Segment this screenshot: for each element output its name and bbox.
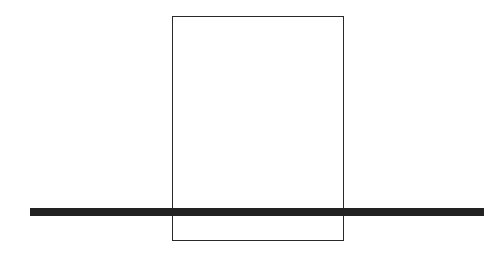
horizontal-bar — [30, 208, 484, 216]
